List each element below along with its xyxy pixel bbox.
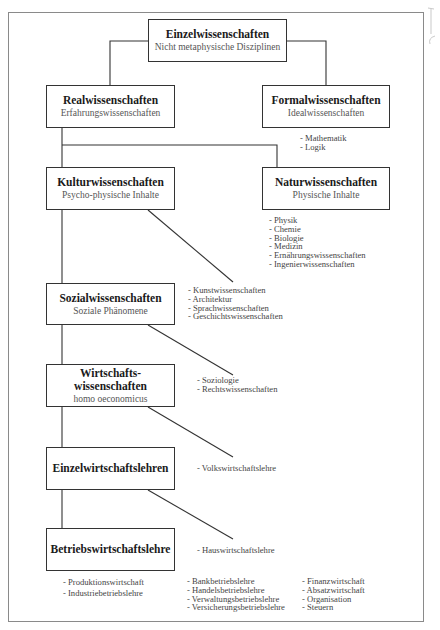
node-subtitle: Erfahrungswissenschaften [61,107,161,119]
list-item: - Geschichtswissenschaften [188,312,283,321]
node-title: Sozialwissenschaften [59,292,161,305]
scan-artifact-icon [426,6,438,46]
node-wirtschaftswissenschaften: Wirtschafts- wissenschaften homo oeconom… [46,364,175,407]
list-item: - Produktionswirtschaft [63,577,144,588]
node-subtitle: Physische Inhalte [293,189,360,201]
node-subtitle: Psycho-physische Inhalte [62,189,159,201]
list-item: - Steuern [302,603,365,612]
list-betrieb-col1: - Produktionswirtschaft - Industriebetri… [63,577,144,599]
node-title: Formalwissenschaften [271,94,380,107]
list-item: - Logik [300,143,347,152]
list-item: - Ingenierwissenschaften [269,260,366,269]
node-subtitle: Idealwissenschaften [288,107,365,119]
list-wirtschaft: - Volkswirtschaftslehre [197,464,276,473]
list-item: - Versicherungsbetriebslehre [187,603,285,612]
node-title: Kulturwissenschaften [57,176,164,189]
node-title: Einzelwissenschaften [166,28,270,41]
node-subtitle: Soziale Phänomene [73,305,148,317]
list-betrieb-col3: - Finanzwirtschaft - Absatzwirtschaft - … [302,577,365,612]
list-formal: - Mathematik - Logik [300,134,347,152]
list-betrieb-col2: - Bankbetriebslehre - Handelsbetriebsleh… [187,577,285,612]
list-kultur: - Kunstwissenschaften - Architektur - Sp… [188,286,283,321]
list-item: - Industriebetriebslehre [63,588,144,599]
list-natur: - Physik - Chemie - Biologie - Medizin -… [269,216,366,269]
list-sozial: - Soziologie - Rechtswissenschaften [197,376,277,394]
node-title: Betriebswirtschaftslehre [51,543,171,556]
node-title: Naturwissenschaften [275,176,377,189]
list-item: - Rechtswissenschaften [197,385,277,394]
node-naturwissenschaften: Naturwissenschaften Physische Inhalte [262,167,390,210]
node-realwissenschaften: Realwissenschaften Erfahrungswissenschaf… [46,85,175,128]
node-betriebswirtschaftslehre: Betriebswirtschaftslehre [46,528,175,571]
node-title: Einzelwirtschaftslehren [52,462,168,475]
node-kulturwissenschaften: Kulturwissenschaften Psycho-physische In… [46,167,175,210]
node-title-line1: Wirtschafts- [80,367,141,380]
node-einzelwirtschaftslehren: Einzelwirtschaftslehren [46,447,175,490]
node-title-line2: wissenschaften [74,380,147,393]
list-item: - Hauswirtschaftslehre [197,546,275,555]
list-einzelwirt: - Hauswirtschaftslehre [197,546,275,555]
node-subtitle: homo oeconomicus [73,393,147,405]
node-title: Realwissenschaften [63,94,158,107]
node-subtitle: Nicht metaphysische Disziplinen [155,41,281,53]
node-einzelwissenschaften: Einzelwissenschaften Nicht metaphysische… [148,19,287,62]
node-formalwissenschaften: Formalwissenschaften Idealwissenschaften [262,85,390,128]
node-sozialwissenschaften: Sozialwissenschaften Soziale Phänomene [46,283,175,325]
list-item: - Volkswirtschaftslehre [197,464,276,473]
